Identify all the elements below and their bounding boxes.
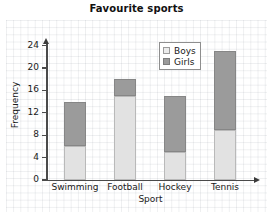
y-tick-0 (42, 179, 47, 180)
y-tick-20 (42, 67, 47, 68)
y-axis-title: Frequency (10, 55, 20, 155)
y-tick-label-0: 0 (15, 175, 39, 184)
bar-football[interactable] (114, 79, 136, 180)
bar-chart-plot-area: 0 4 8 12 16 20 24 Frequency Swimming Foo… (0, 0, 273, 218)
bar-tennis[interactable] (214, 51, 236, 180)
y-tick-24 (42, 45, 47, 46)
y-tick-12 (42, 112, 47, 113)
y-tick-4 (42, 157, 47, 158)
bar-hockey[interactable] (164, 96, 186, 180)
bar-segment-girls-hockey[interactable] (164, 96, 186, 152)
legend-label-girls: Girls (174, 57, 194, 67)
x-axis-title: Sport (46, 194, 255, 204)
bar-segment-boys-tennis[interactable] (214, 130, 236, 180)
bar-segment-girls-swimming[interactable] (64, 102, 86, 147)
legend-swatch-boys-icon (163, 47, 170, 54)
chart-legend: Boys Girls (159, 42, 201, 70)
bar-segment-girls-football[interactable] (114, 79, 136, 96)
y-tick-8 (42, 135, 47, 136)
bar-segment-girls-tennis[interactable] (214, 51, 236, 129)
y-tick-label-24: 24 (15, 41, 39, 50)
bar-segment-boys-swimming[interactable] (64, 146, 86, 180)
y-axis-arrow-icon (43, 38, 49, 44)
legend-item-girls[interactable]: Girls (163, 56, 196, 67)
bar-segment-boys-hockey[interactable] (164, 152, 186, 180)
legend-swatch-girls-icon (163, 58, 170, 65)
legend-label-boys: Boys (174, 46, 196, 56)
y-tick-16 (42, 90, 47, 91)
legend-item-boys[interactable]: Boys (163, 45, 196, 56)
x-tick-label-tennis: Tennis (194, 182, 256, 192)
bar-segment-boys-football[interactable] (114, 96, 136, 180)
bar-swimming[interactable] (64, 102, 86, 180)
